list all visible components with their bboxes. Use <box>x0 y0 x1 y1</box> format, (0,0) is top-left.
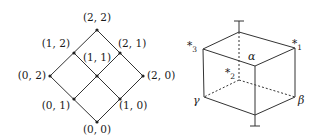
cube-edge <box>255 97 295 115</box>
gamma-label: γ <box>193 94 200 107</box>
star1-label: *1 <box>292 37 302 52</box>
figure: (2, 2)(1, 2)(2, 1)(1, 1)(0, 2)(2, 0)(0, … <box>0 0 319 137</box>
cube-diagram: α β γ *1 *2 *3 <box>187 21 304 126</box>
lattice-node-label: (0, 1) <box>42 99 70 111</box>
lattice-node-label: (0, 2) <box>18 69 46 81</box>
lattice-node <box>118 51 121 54</box>
lattice-node <box>48 74 51 77</box>
star3-label: *3 <box>187 39 197 54</box>
lattice-diagram: (2, 2)(1, 2)(2, 1)(1, 1)(0, 2)(2, 0)(0, … <box>18 11 175 135</box>
lattice-node-label: (1, 2) <box>42 37 70 49</box>
cube-hidden-edge <box>204 80 239 97</box>
lattice-node <box>72 97 75 100</box>
cube-edge <box>204 97 255 115</box>
lattice-node-label: (1, 1) <box>83 51 111 63</box>
star2-label: *2 <box>225 66 235 81</box>
alpha-label: α <box>248 50 256 63</box>
lattice-node <box>95 28 98 31</box>
lattice-node-label: (0, 0) <box>83 123 111 135</box>
lattice-node <box>72 51 75 54</box>
lattice-node-label: (2, 2) <box>83 11 111 23</box>
lattice-node-label: (2, 1) <box>118 37 146 49</box>
lattice-node <box>95 74 98 77</box>
lattice-node-label: (1, 0) <box>119 99 147 111</box>
lattice-node <box>141 74 144 77</box>
cube-hidden-edge <box>239 80 295 97</box>
beta-label: β <box>297 94 304 107</box>
lattice-node-label: (2, 0) <box>147 69 175 81</box>
cube-edge <box>203 49 204 97</box>
